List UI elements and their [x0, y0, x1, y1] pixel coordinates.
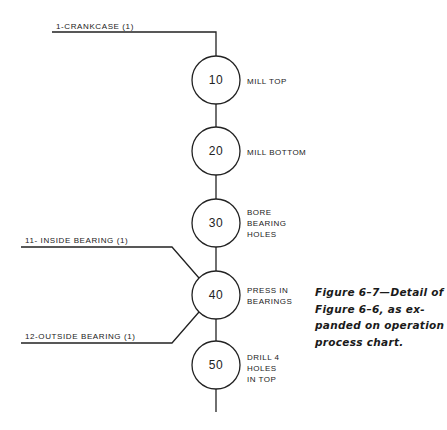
operation-description-line: HOLES: [247, 230, 277, 239]
material-label-inside-bearing: 11- INSIDE BEARING (1): [25, 236, 128, 245]
operation-50: 50 DRILL 4 HOLES IN TOP: [192, 341, 280, 389]
operation-number: 40: [209, 288, 223, 302]
operation-description-line: BEARING: [247, 219, 287, 228]
material-feed-outside-bearing: 12-OUTSIDE BEARING (1): [21, 312, 199, 343]
operation-number: 10: [209, 73, 223, 87]
operation-20: 20 MILL BOTTOM: [192, 127, 306, 175]
caption-line: Figure 6–7—Detail of: [315, 284, 447, 301]
caption-line: Figure 6–6, as ex-: [315, 301, 447, 318]
operation-40: 40 PRESS IN BEARINGS: [192, 271, 292, 319]
material-label-outside-bearing: 12-OUTSIDE BEARING (1): [25, 332, 136, 341]
operation-description: MILL TOP: [247, 77, 287, 86]
operation-description-line: BEARINGS: [247, 297, 292, 306]
operation-10: 10 MILL TOP: [192, 56, 287, 104]
caption-line: process chart.: [315, 334, 447, 351]
operation-description-line: PRESS IN: [247, 286, 288, 295]
operation-description-line: DRILL 4: [247, 353, 280, 362]
operation-description-line: IN TOP: [247, 375, 276, 384]
figure-caption: Figure 6–7—Detail of Figure 6–6, as ex- …: [315, 284, 447, 350]
operation-description: MILL BOTTOM: [247, 148, 306, 157]
material-label-crankcase: 1-CRANKCASE (1): [56, 22, 134, 31]
caption-line: panded on operation: [315, 317, 447, 334]
material-feed-crankcase: 1-CRANKCASE (1): [52, 22, 216, 56]
operation-description-line: BORE: [247, 208, 272, 217]
operation-number: 50: [209, 358, 223, 372]
operation-30: 30 BORE BEARING HOLES: [192, 199, 287, 247]
operation-number: 20: [209, 144, 223, 158]
material-feed-inside-bearing: 11- INSIDE BEARING (1): [21, 236, 199, 278]
operation-number: 30: [209, 216, 223, 230]
operation-description-line: HOLES: [247, 364, 277, 373]
operation-process-chart: 1-CRANKCASE (1) 11- INSIDE BEARING (1) 1…: [0, 0, 447, 430]
